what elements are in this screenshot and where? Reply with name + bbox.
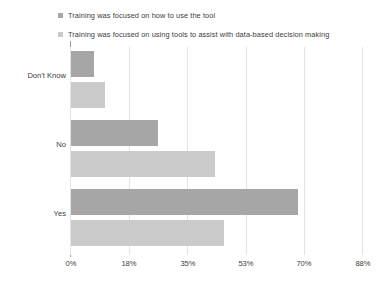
y-axis-label-dont-know: Don't Know — [2, 71, 66, 80]
bar-chart: Training was focused on how to use the t… — [0, 0, 390, 291]
legend-item-label: Training was focused on using tools to a… — [68, 30, 329, 39]
bar-dont-know-series-1[interactable] — [71, 51, 94, 77]
bar-no-series-2[interactable] — [71, 151, 215, 177]
gridline-53 — [246, 47, 247, 255]
y-axis-label-yes: Yes — [2, 209, 66, 218]
legend-item-series-2[interactable]: Training was focused on using tools to a… — [58, 27, 388, 41]
bar-dont-know-series-2[interactable] — [71, 82, 105, 108]
square-swatch-icon — [58, 32, 63, 37]
gridline-70 — [304, 47, 305, 255]
legend-item-series-1[interactable]: Training was focused on how to use the t… — [58, 8, 388, 22]
bar-yes-series-2[interactable] — [71, 220, 224, 246]
x-tick-18: 18% — [121, 259, 136, 268]
y-axis-label-no: No — [2, 140, 66, 149]
bar-yes-series-1[interactable] — [71, 189, 298, 215]
y-axis-category-labels: Don't Know No Yes — [0, 47, 66, 255]
x-tick-53: 53% — [238, 259, 253, 268]
square-swatch-icon — [58, 13, 63, 18]
plot-area — [70, 47, 363, 255]
x-axis-tick-labels: 0% 18% 35% 53% 70% 88% — [0, 259, 390, 273]
x-tick-0: 0% — [66, 259, 77, 268]
x-tick-70: 70% — [296, 259, 311, 268]
x-tick-35: 35% — [180, 259, 195, 268]
gridline-88 — [362, 47, 363, 255]
bar-no-series-1[interactable] — [71, 120, 158, 146]
chart-legend: Training was focused on how to use the t… — [58, 8, 388, 46]
legend-item-label: Training was focused on how to use the t… — [68, 11, 215, 20]
x-tick-88: 88% — [355, 259, 370, 268]
